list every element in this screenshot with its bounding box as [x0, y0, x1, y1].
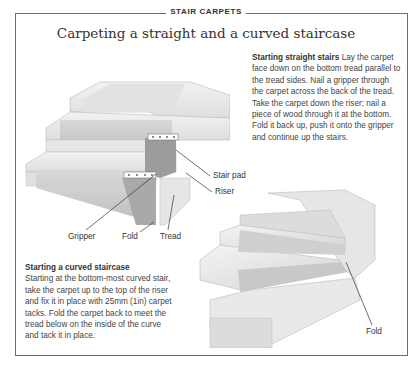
straight-stairs-text: Starting straight stairs Lay the carpet … — [252, 52, 402, 143]
label-fold-left: Fold — [122, 232, 138, 241]
label-fold-right: Fold — [366, 327, 382, 336]
section-tag: STAIR CARPETS — [0, 7, 412, 16]
curved-staircase-body: Starting at the bottom-most curved stair… — [25, 274, 172, 340]
curved-staircase-text: Starting a curved staircaseStarting at t… — [25, 262, 175, 342]
curved-staircase-illustration — [195, 178, 395, 348]
straight-stairs-heading: Starting straight stairs — [252, 53, 339, 62]
label-riser: Riser — [215, 187, 234, 196]
straight-stairs-body: Lay the carpet face down on the bottom t… — [252, 53, 400, 142]
section-tag-text: STAIR CARPETS — [166, 7, 246, 16]
label-gripper: Gripper — [68, 232, 95, 241]
curved-staircase-heading: Starting a curved staircase — [25, 262, 175, 273]
label-tread: Tread — [160, 232, 181, 241]
label-stair-pad: Stair pad — [213, 171, 246, 180]
page-title: Carpeting a straight and a curved stairc… — [0, 25, 412, 41]
